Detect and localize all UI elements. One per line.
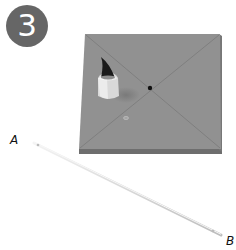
label-a: A	[10, 133, 18, 147]
stick-end-b	[212, 230, 215, 233]
small-hole	[124, 116, 129, 119]
stick-end-a	[37, 144, 40, 147]
stick-rod	[34, 142, 221, 235]
label-b: B	[226, 234, 234, 248]
illustration	[0, 0, 236, 250]
center-hole	[148, 86, 152, 90]
